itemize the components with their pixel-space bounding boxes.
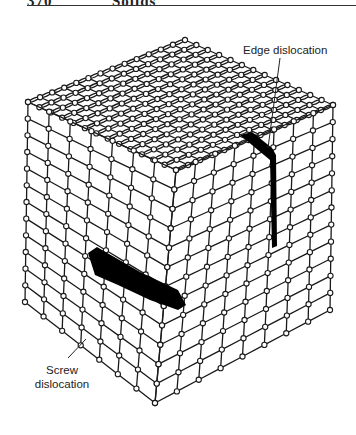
screw-label-line2: dislocation bbox=[30, 377, 94, 391]
screw-label-line1: Screw bbox=[30, 363, 94, 377]
edge-dislocation-label: Edge dislocation bbox=[243, 43, 327, 57]
screw-dislocation-label: Screw dislocation bbox=[30, 363, 94, 391]
crystal-lattice bbox=[22, 37, 335, 405]
